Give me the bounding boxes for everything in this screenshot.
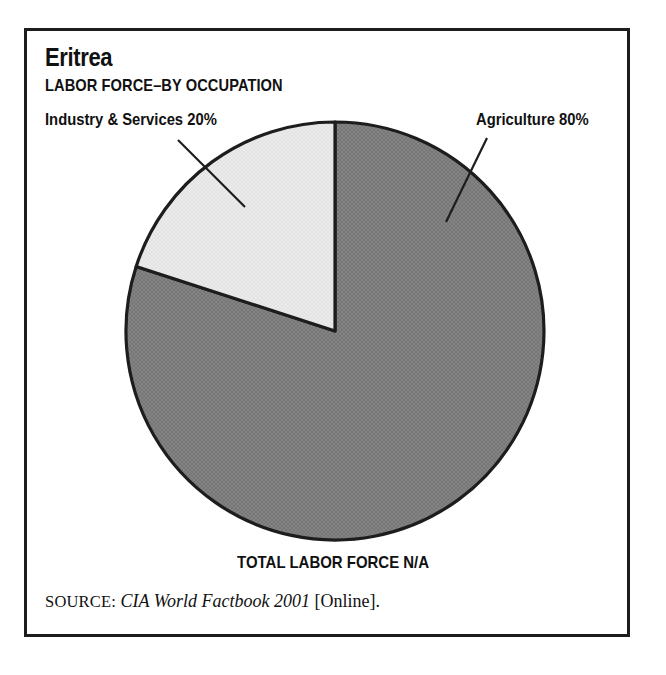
source-title: CIA World Factbook 2001 [121,591,311,611]
source-medium: [Online]. [315,591,380,611]
pie-chart-graphic [27,31,627,634]
total-labor-force-label: TOTAL LABOR FORCE N/A [0,553,666,573]
source-citation: SOURCE: CIA World Factbook 2001 [Online]… [45,591,380,612]
source-prefix: SOURCE: [45,592,116,611]
pie-chart-figure: Eritrea LABOR FORCE–BY OCCUPATION Indust… [0,0,666,675]
total-labor-force-text: TOTAL LABOR FORCE N/A [237,553,429,573]
